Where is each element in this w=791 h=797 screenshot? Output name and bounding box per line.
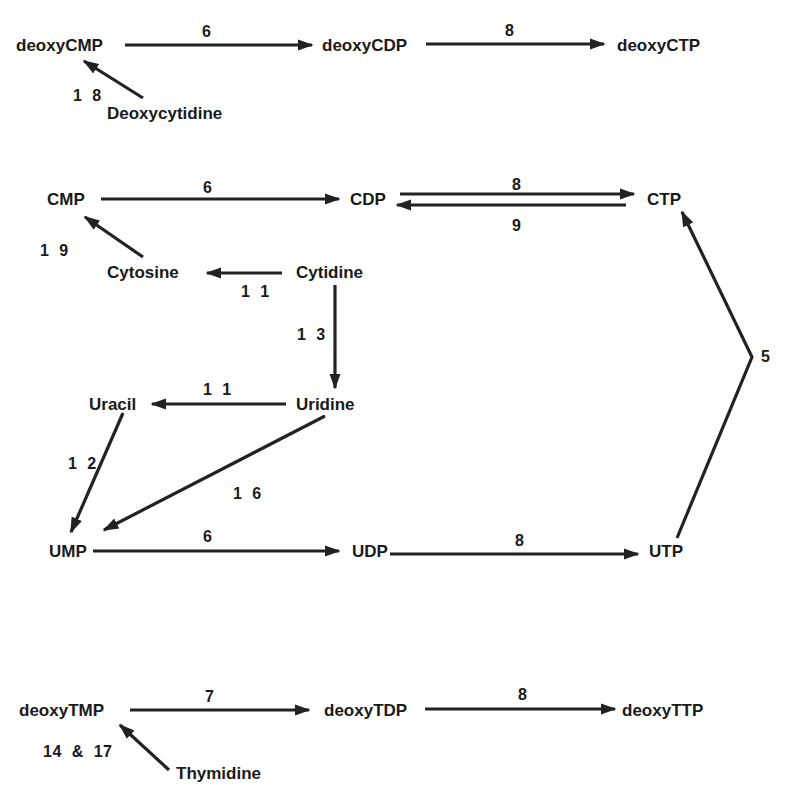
arrow-cytosine-to-cmp	[85, 217, 143, 257]
node-ump: UMP	[49, 542, 87, 561]
arrow-uridine-to-ump	[104, 416, 325, 530]
reaction-label-14-17: 14 & 17	[43, 743, 112, 760]
node-deoxyttp: deoxyTTP	[622, 701, 703, 720]
reaction-label-5: 5	[761, 348, 773, 365]
node-cmp: CMP	[47, 190, 85, 209]
node-utp: UTP	[649, 542, 683, 561]
node-cytosine: Cytosine	[107, 263, 179, 282]
arrow-uracil-to-ump	[71, 413, 123, 532]
reaction-label-9: 9	[512, 217, 524, 234]
node-deoxytmp: deoxyTMP	[19, 701, 104, 720]
reaction-label-7: 7	[205, 688, 217, 705]
node-deoxycdp: deoxyCDP	[322, 36, 407, 55]
pyrimidine-pathway-diagram: deoxyCMP deoxyCDP deoxyCTP Deoxycytidine…	[0, 0, 791, 797]
reaction-label-8: 8	[518, 686, 530, 703]
reaction-label-8: 8	[515, 532, 527, 549]
reaction-label-6: 6	[202, 23, 214, 40]
reaction-label-11: 1 1	[203, 381, 234, 398]
node-thymidine: Thymidine	[176, 764, 261, 783]
node-deoxyctp: deoxyCTP	[617, 36, 700, 55]
reaction-label-19: 1 9	[40, 242, 71, 259]
node-cdp: CDP	[350, 190, 386, 209]
node-cytidine: Cytidine	[296, 263, 363, 282]
reaction-label-11: 1 1	[241, 283, 272, 300]
reaction-label-16: 1 6	[233, 485, 264, 502]
reaction-label-6: 6	[203, 179, 215, 196]
node-deoxycmp: deoxyCMP	[16, 36, 103, 55]
node-deoxytdp: deoxyTDP	[324, 701, 407, 720]
node-uridine: Uridine	[296, 395, 355, 414]
reaction-label-18: 1 8	[73, 87, 104, 104]
arrow-thymidine-to-dtmp	[120, 725, 169, 770]
reaction-label-6: 6	[203, 528, 215, 545]
reaction-label-8: 8	[512, 176, 524, 193]
node-udp: UDP	[352, 542, 388, 561]
reaction-label-13: 1 3	[297, 326, 328, 343]
node-deoxycytidine: Deoxycytidine	[107, 104, 222, 123]
reaction-label-12: 1 2	[68, 455, 99, 472]
arrow-utp-to-ctp	[677, 212, 752, 538]
node-uracil: Uracil	[89, 395, 136, 414]
node-ctp: CTP	[647, 190, 681, 209]
reaction-label-8: 8	[505, 22, 517, 39]
